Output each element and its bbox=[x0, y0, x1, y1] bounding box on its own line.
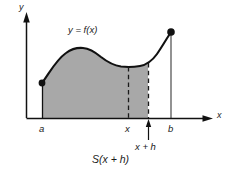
tick-label-b: b bbox=[168, 124, 173, 134]
left-endpoint-dot bbox=[39, 80, 46, 87]
curve-label: y = f(x) bbox=[68, 25, 97, 35]
right-endpoint-dot bbox=[167, 28, 175, 36]
tick-label-a: a bbox=[39, 124, 44, 134]
tick-label-x: x bbox=[125, 124, 130, 134]
figure-caption: S(x + h) bbox=[92, 154, 129, 165]
shaded-area-under-curve bbox=[42, 48, 148, 118]
x-axis-arrowhead bbox=[203, 115, 214, 122]
diagram-canvas bbox=[0, 0, 229, 172]
x-plus-h-pointer-arrowhead bbox=[146, 119, 151, 127]
y-axis-arrowhead bbox=[23, 12, 30, 23]
x-axis-label: x bbox=[217, 111, 222, 120]
y-axis-label: y bbox=[19, 3, 24, 12]
figure-container: y x y = f(x) a x b x + h S(x + h) bbox=[0, 0, 229, 172]
tick-label-x-plus-h: x + h bbox=[135, 142, 156, 152]
